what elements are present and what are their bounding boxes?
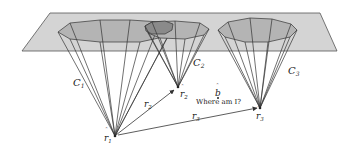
cone-c1-generator-line (115, 42, 140, 136)
apex-r2-point (177, 86, 180, 89)
apex-r2-hat: ˆ (181, 83, 184, 90)
apex-r3-label: r3 (256, 111, 264, 122)
vector-r3 (118, 108, 257, 135)
point-b-caption: Where am I? (196, 98, 241, 106)
cone-c1-label: C1 (73, 77, 84, 89)
apex-r1-label: r1 (104, 133, 112, 144)
diagram-canvas: C1 C2 C3 r1 ˆ r2 ˆ r3 ˆ r2 r3 ˆ b (0, 0, 354, 149)
cone-c2 (145, 21, 209, 87)
vector-r2 (116, 90, 174, 135)
cone-c3-label: C3 (288, 65, 300, 77)
apex-r1-point (114, 135, 117, 138)
apex-r1-hat: ˆ (105, 126, 108, 133)
vector-r3-label: r3 (192, 111, 200, 122)
cone-c3 (218, 18, 297, 108)
apex-r2-label: r2 (180, 89, 188, 100)
cone-c3-generator-line (245, 42, 260, 108)
point-b-label: b (215, 88, 221, 98)
apex-r3-hat: ˆ (257, 105, 260, 112)
cone-diagram: C1 C2 C3 r1 ˆ r2 ˆ r3 ˆ r2 r3 ˆ b (0, 0, 354, 149)
vector-r2-label: r2 (144, 99, 152, 110)
cone-c2-label: C2 (193, 57, 205, 69)
